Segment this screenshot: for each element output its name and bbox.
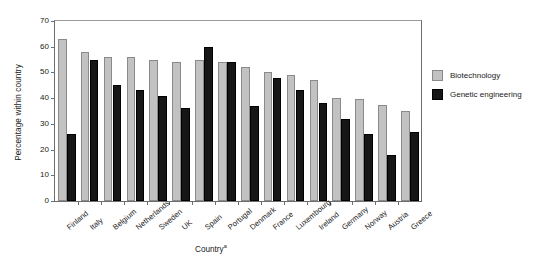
y-axis-tick-label: 70 — [27, 17, 49, 25]
x-axis-tick-label: UK — [180, 218, 194, 232]
y-axis-tick-mark — [51, 201, 55, 202]
bar-biotechnology — [264, 72, 273, 201]
bar-biotechnology — [401, 111, 410, 201]
bar-biotechnology — [332, 98, 341, 201]
legend-swatch-biotechnology — [432, 70, 443, 81]
bar-genetic-engineering — [364, 134, 373, 201]
bar-group — [126, 21, 144, 201]
legend-swatch-genetic-engineering — [432, 89, 443, 100]
x-axis-tick-mark — [307, 201, 308, 205]
bar-biotechnology — [149, 60, 158, 201]
legend-label: Biotechnology — [450, 71, 500, 80]
bar-biotechnology — [310, 80, 319, 201]
bars-container — [55, 21, 421, 201]
bar-group — [332, 21, 350, 201]
x-axis-tick-mark — [375, 201, 376, 205]
bar-group — [172, 21, 190, 201]
x-axis-tick-label: Finland — [65, 209, 90, 232]
x-axis-tick-mark — [398, 201, 399, 205]
x-axis-tick-label: Austria — [386, 210, 410, 232]
bar-group — [400, 21, 418, 201]
bar-group — [149, 21, 167, 201]
legend-item: Biotechnology — [432, 70, 522, 81]
bar-genetic-engineering — [296, 90, 305, 201]
plot-area: 010203040506070 FinlandItalyBelgiumNethe… — [54, 20, 422, 202]
bar-group — [355, 21, 373, 201]
x-axis-tick-mark — [261, 201, 262, 205]
x-axis-title-superscript: a — [224, 243, 227, 249]
bar-group — [286, 21, 304, 201]
x-axis-title: Countrya — [195, 243, 227, 254]
x-axis-tick-mark — [192, 201, 193, 205]
x-axis-tick-label: Greece — [409, 209, 434, 232]
x-axis-tick-mark — [352, 201, 353, 205]
x-axis-tick-label: Italy — [88, 216, 105, 232]
bar-genetic-engineering — [181, 108, 190, 201]
bar-group — [103, 21, 121, 201]
x-axis-tick-label: Spain — [203, 212, 224, 232]
legend-item: Genetic engineering — [432, 89, 522, 100]
chart-legend: BiotechnologyGenetic engineering — [432, 70, 522, 108]
x-axis-tick-mark — [215, 201, 216, 205]
bar-genetic-engineering — [341, 119, 350, 201]
x-axis-tick-mark — [78, 201, 79, 205]
y-axis-tick-label: 10 — [27, 171, 49, 179]
bar-genetic-engineering — [113, 85, 122, 201]
y-axis-title: Percentage within country — [14, 33, 23, 193]
bar-biotechnology — [81, 52, 90, 201]
x-axis-tick-label: Portugal — [226, 207, 254, 232]
x-axis-tick-label: Belgium — [111, 207, 138, 232]
bar-genetic-engineering — [250, 106, 259, 201]
bar-group — [217, 21, 235, 201]
x-axis-title-text: Country — [195, 245, 224, 254]
bar-genetic-engineering — [67, 134, 76, 201]
bar-biotechnology — [287, 75, 296, 201]
x-axis-tick-mark — [238, 201, 239, 205]
bar-genetic-engineering — [410, 132, 419, 201]
y-axis-tick-label: 60 — [27, 43, 49, 51]
bar-group — [57, 21, 75, 201]
bar-group — [195, 21, 213, 201]
bar-biotechnology — [127, 57, 136, 201]
x-axis-tick-mark — [101, 201, 102, 205]
bar-chart-figure: Percentage within country Countrya 01020… — [0, 0, 541, 270]
bar-biotechnology — [104, 57, 113, 201]
y-axis-tick-label: 0 — [27, 197, 49, 205]
y-axis-tick-label: 50 — [27, 68, 49, 76]
bar-biotechnology — [241, 67, 250, 201]
bar-biotechnology — [58, 39, 67, 201]
bar-group — [240, 21, 258, 201]
bar-genetic-engineering — [204, 47, 213, 201]
bar-group — [309, 21, 327, 201]
x-axis-tick-mark — [284, 201, 285, 205]
bar-genetic-engineering — [90, 60, 99, 201]
bar-group — [80, 21, 98, 201]
legend-label: Genetic engineering — [450, 90, 522, 99]
bar-genetic-engineering — [319, 103, 328, 201]
bar-genetic-engineering — [273, 78, 282, 201]
bar-genetic-engineering — [227, 62, 236, 201]
bar-biotechnology — [172, 62, 181, 201]
x-axis-tick-mark — [147, 201, 148, 205]
y-axis-tick-label: 30 — [27, 120, 49, 128]
bar-group — [263, 21, 281, 201]
y-axis-tick-label: 40 — [27, 94, 49, 102]
x-axis-tick-mark — [124, 201, 125, 205]
y-axis-tick-label: 20 — [27, 146, 49, 154]
bar-biotechnology — [218, 62, 227, 201]
bar-biotechnology — [195, 60, 204, 201]
bar-biotechnology — [355, 99, 364, 201]
bar-group — [378, 21, 396, 201]
bar-genetic-engineering — [158, 96, 167, 201]
bar-genetic-engineering — [136, 90, 145, 201]
bar-biotechnology — [378, 105, 387, 201]
bar-genetic-engineering — [387, 155, 396, 201]
